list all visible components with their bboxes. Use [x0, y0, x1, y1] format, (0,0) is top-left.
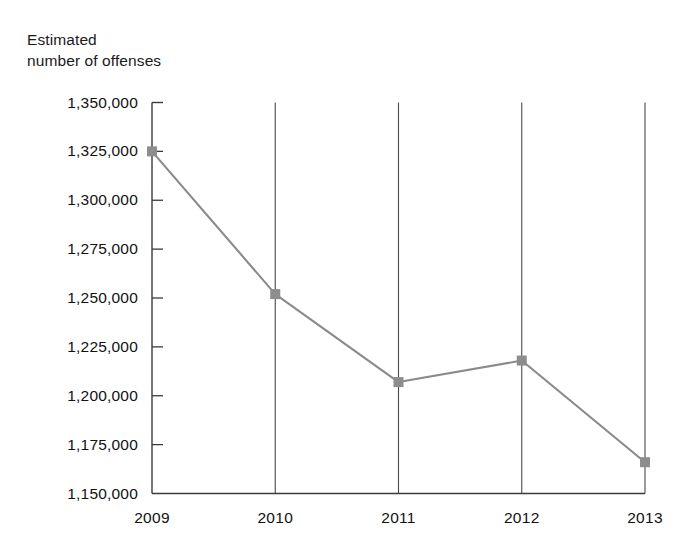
y-tick-label-1300000: 1,300,000	[18, 191, 138, 209]
x-tick-label-2012: 2012	[504, 509, 540, 527]
x-tick-label-2011: 2011	[381, 509, 416, 527]
y-tick-label-1175000: 1,175,000	[18, 436, 138, 454]
plot-area	[0, 0, 699, 555]
y-tick-label-1225000: 1,225,000	[18, 338, 138, 356]
y-tick-label-1200000: 1,200,000	[18, 387, 138, 405]
data-point-2010	[270, 289, 280, 299]
x-tick-label-2013: 2013	[627, 509, 663, 527]
y-tick-label-1325000: 1,325,000	[18, 142, 138, 160]
data-point-2009	[147, 146, 157, 156]
y-axis-tick-marks	[152, 151, 163, 444]
vertical-gridlines	[275, 103, 645, 494]
x-tick-label-2009: 2009	[134, 509, 170, 527]
y-tick-label-1250000: 1,250,000	[18, 289, 138, 307]
x-tick-label-2010: 2010	[257, 509, 293, 527]
data-point-2013	[640, 457, 650, 467]
data-point-2011	[394, 377, 404, 387]
y-tick-label-1275000: 1,275,000	[18, 240, 138, 258]
line-chart: Estimatednumber of offenses 1,350,0001,3…	[0, 0, 699, 555]
data-point-2012	[517, 356, 527, 366]
y-tick-label-1150000: 1,150,000	[18, 485, 138, 503]
y-tick-label-1350000: 1,350,000	[18, 94, 138, 112]
